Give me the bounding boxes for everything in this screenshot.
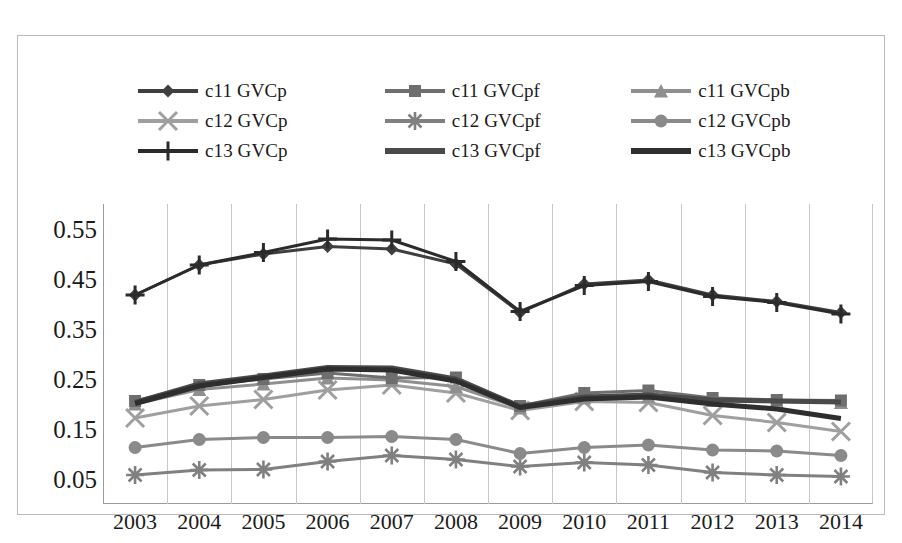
legend-marker <box>404 110 426 132</box>
legend-marker-x-icon <box>157 110 179 132</box>
y-tick-label: 0.45 <box>27 267 97 292</box>
legend-swatch <box>631 112 691 130</box>
legend-marker-circle-icon <box>650 110 672 132</box>
legend-label: c11 GVCp <box>205 80 287 102</box>
legend-item-c13-gvcpb[interactable]: c13 GVCpb <box>631 140 878 162</box>
chart-figure: c11 GVCpc11 GVCpfc11 GVCpbc12 GVCpc12 GV… <box>17 35 885 515</box>
x-tick-label: 2012 <box>691 510 735 534</box>
legend-marker-square-icon <box>404 80 426 102</box>
legend-marker <box>157 80 179 102</box>
legend-item-c12-gvcp[interactable]: c12 GVCp <box>138 110 385 132</box>
legend-marker-plus-icon <box>157 140 179 162</box>
y-tick-label: 0.35 <box>27 317 97 342</box>
legend-label: c12 GVCpb <box>698 110 790 132</box>
legend-swatch <box>138 82 198 100</box>
series-line <box>135 239 841 314</box>
legend-label: c13 GVCpf <box>452 140 541 162</box>
x-tick-label: 2011 <box>627 510 670 534</box>
legend-label: c13 GVCp <box>205 140 288 162</box>
legend-swatch <box>138 112 198 130</box>
series-c13-gvcp <box>126 230 851 324</box>
x-tick-label: 2013 <box>755 510 799 534</box>
legend-marker-asterisk-icon <box>404 110 426 132</box>
x-tick-label: 2005 <box>241 510 285 534</box>
legend-marker-triangle-icon <box>650 80 672 102</box>
series-layer <box>103 204 873 504</box>
legend-marker <box>404 80 426 102</box>
series-c11-gvcp <box>129 240 848 319</box>
series-line <box>135 456 841 477</box>
legend-marker <box>157 140 179 162</box>
legend-swatch <box>631 142 691 160</box>
legend-item-c12-gvcpb[interactable]: c12 GVCpb <box>631 110 878 132</box>
x-tick-label: 2004 <box>177 510 221 534</box>
legend-item-c13-gvcp[interactable]: c13 GVCp <box>138 140 385 162</box>
y-tick-label: 0.55 <box>27 217 97 242</box>
legend-swatch <box>631 82 691 100</box>
legend-swatch <box>385 112 445 130</box>
legend-marker-diamond-icon <box>157 80 179 102</box>
legend-label: c12 GVCpf <box>452 110 541 132</box>
x-tick-label: 2014 <box>819 510 863 534</box>
legend-swatch <box>385 82 445 100</box>
series-c12-gvcpb <box>129 430 848 462</box>
legend-swatch <box>138 142 198 160</box>
x-tick-label: 2010 <box>562 510 606 534</box>
x-tick-label: 2008 <box>434 510 478 534</box>
legend-item-c11-gvcp[interactable]: c11 GVCp <box>138 80 385 102</box>
legend-swatch <box>385 142 445 160</box>
legend-line <box>631 148 691 154</box>
legend-item-c13-gvcpf[interactable]: c13 GVCpf <box>385 140 632 162</box>
x-tick-label: 2009 <box>498 510 542 534</box>
y-tick-label: 0.15 <box>27 417 97 442</box>
x-tick-label: 2003 <box>113 510 157 534</box>
legend-label: c11 GVCpb <box>698 80 790 102</box>
x-tick-label: 2007 <box>370 510 414 534</box>
chart-legend: c11 GVCpc11 GVCpfc11 GVCpbc12 GVCpc12 GV… <box>138 76 878 166</box>
plot-area <box>103 204 873 504</box>
legend-item-c12-gvcpf[interactable]: c12 GVCpf <box>385 110 632 132</box>
legend-marker <box>650 80 672 102</box>
legend-label: c13 GVCpb <box>698 140 790 162</box>
legend-item-c11-gvcpb[interactable]: c11 GVCpb <box>631 80 878 102</box>
y-tick-label: 0.25 <box>27 367 97 392</box>
y-tick-label: 0.05 <box>27 467 97 492</box>
y-axis: 0.050.150.250.350.450.55 <box>23 204 97 504</box>
x-tick-label: 2006 <box>306 510 350 534</box>
legend-marker <box>157 110 179 132</box>
series-c12-gvcpf <box>126 447 850 486</box>
x-axis: 2003200420052006200720082009201020112012… <box>103 510 873 543</box>
legend-label: c12 GVCp <box>205 110 288 132</box>
legend-label: c11 GVCpf <box>452 80 540 102</box>
legend-marker <box>650 110 672 132</box>
series-line <box>135 437 841 456</box>
legend-item-c11-gvcpf[interactable]: c11 GVCpf <box>385 80 632 102</box>
legend-line <box>385 148 445 154</box>
